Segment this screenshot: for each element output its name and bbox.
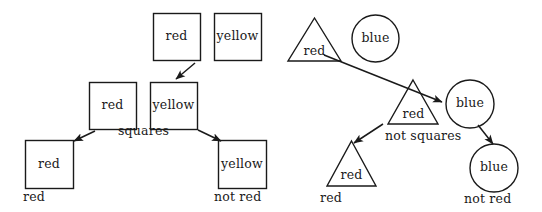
arrow-mid-yellow-to-bot-yellow xyxy=(198,130,221,141)
square-top-red-label: red xyxy=(153,30,200,43)
triangle-bot-red-label: red xyxy=(328,169,375,182)
caption-squares: squares xyxy=(118,125,169,138)
square-mid-yellow-label: yellow xyxy=(148,99,199,112)
arrow-mid-red-to-bot-red xyxy=(74,131,95,141)
square-top-yellow-label: yellow xyxy=(212,30,263,43)
arrow-top-red-to-mid-yellow xyxy=(176,63,195,79)
arrow-tri-mid-to-tri-bot xyxy=(354,124,383,143)
caption-square-red: red xyxy=(23,191,45,204)
caption-triangle-red: red xyxy=(320,192,342,205)
shape-decision-diagram: red yellow red yellow red yellow red blu… xyxy=(0,0,542,212)
circle-bot-blue-label: blue xyxy=(470,161,518,174)
square-bot-yellow-label: yellow xyxy=(216,158,268,171)
square-mid-red-label: red xyxy=(89,99,136,112)
arrow-cir-mid-to-cir-bot xyxy=(478,125,493,144)
triangle-top-red-label: red xyxy=(291,45,338,58)
caption-square-not-red: not red xyxy=(214,191,261,204)
arrow-tri-top-to-cir-mid xyxy=(324,55,442,102)
circle-top-blue-label: blue xyxy=(352,32,399,45)
square-bot-red-label: red xyxy=(25,158,73,171)
circle-mid-blue-label: blue xyxy=(446,97,494,110)
caption-not-squares: not squares xyxy=(385,130,461,143)
triangle-mid-red-label: red xyxy=(390,108,437,121)
caption-circle-not-red: not red xyxy=(464,193,511,206)
